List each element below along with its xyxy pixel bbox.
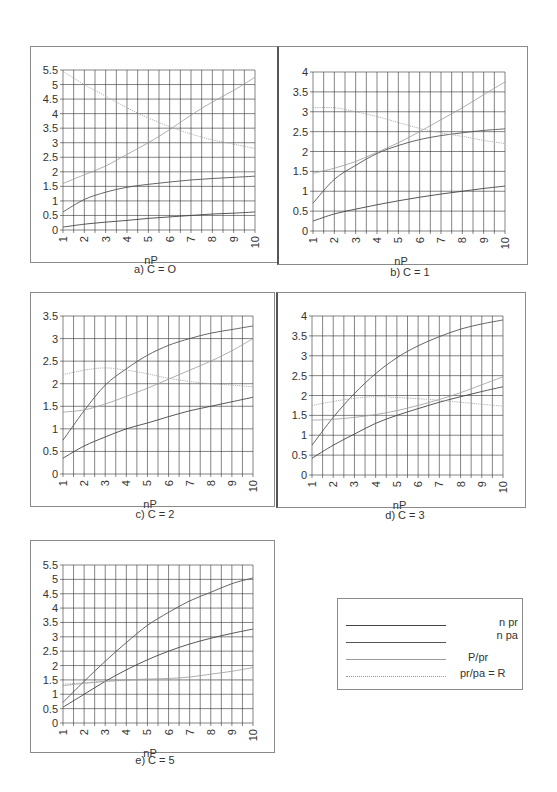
x-tick-label: 8 bbox=[206, 236, 218, 242]
y-tick-label: 2.5 bbox=[43, 645, 58, 657]
legend-line-p-pr bbox=[346, 659, 446, 660]
x-tick-label: 10 bbox=[247, 480, 259, 492]
y-tick-label: 1.5 bbox=[43, 180, 58, 192]
y-tick-label: 0 bbox=[52, 717, 58, 729]
legend-label-p-pr: P/pr bbox=[468, 651, 488, 663]
x-tick-label: 1 bbox=[57, 729, 69, 735]
y-tick-label: 2 bbox=[52, 378, 58, 390]
y-tick-label: 0 bbox=[301, 469, 307, 481]
y-tick-label: 2 bbox=[301, 390, 307, 402]
x-tick-label: 9 bbox=[226, 480, 238, 486]
y-tick-label: 3 bbox=[52, 333, 58, 345]
y-tick-label: 3.5 bbox=[43, 122, 58, 134]
x-tick-label: 2 bbox=[78, 236, 90, 242]
y-tick-label: 0.5 bbox=[43, 703, 58, 715]
x-tick-label: 3 bbox=[348, 481, 360, 487]
chart-c-grid bbox=[60, 316, 253, 477]
x-tick-label: 7 bbox=[185, 236, 197, 242]
x-tick-label: 10 bbox=[497, 481, 509, 493]
y-tick-label: 3 bbox=[52, 137, 58, 149]
y-tick-label: 3 bbox=[301, 350, 307, 362]
x-tick-label: 7 bbox=[184, 480, 196, 486]
x-tick-label: 9 bbox=[226, 729, 238, 735]
y-tick-label: 3.5 bbox=[43, 310, 58, 322]
y-tick-label: 0.5 bbox=[43, 445, 58, 457]
y-tick-label: 5 bbox=[52, 79, 58, 91]
y-tick-label: 4 bbox=[52, 602, 58, 614]
x-tick-label: 5 bbox=[391, 481, 403, 487]
y-tick-label: 1.5 bbox=[293, 165, 308, 177]
y-tick-label: 1.5 bbox=[292, 409, 307, 421]
y-tick-label: 1 bbox=[301, 429, 307, 441]
chart-b: 00.511.522.533.5412345678910nP bbox=[293, 66, 511, 267]
x-tick-label: 5 bbox=[142, 236, 154, 242]
x-tick-label: 6 bbox=[163, 729, 175, 735]
x-tick-label: 10 bbox=[499, 237, 511, 249]
x-tick-label: 4 bbox=[121, 236, 133, 242]
x-tick-label: 3 bbox=[99, 729, 111, 735]
chart-e-grid bbox=[60, 565, 253, 726]
x-tick-label: 6 bbox=[164, 236, 176, 242]
x-tick-label: 9 bbox=[478, 237, 490, 243]
y-tick-label: 3 bbox=[302, 106, 308, 118]
y-tick-label: 1.5 bbox=[43, 674, 58, 686]
x-tick-label: 4 bbox=[120, 729, 132, 735]
chart-d: 00.511.522.533.5412345678910nP bbox=[292, 310, 509, 511]
y-tick-label: 3.5 bbox=[292, 330, 307, 342]
y-tick-label: 3.5 bbox=[43, 616, 58, 628]
legend-label-n-pr: n pr bbox=[446, 616, 518, 628]
x-tick-label: 3 bbox=[100, 236, 112, 242]
y-tick-label: 1 bbox=[52, 195, 58, 207]
x-tick-label: 7 bbox=[435, 237, 447, 243]
y-tick-label: 0 bbox=[302, 225, 308, 237]
x-tick-label: 3 bbox=[350, 237, 362, 243]
legend-line-n-pa bbox=[346, 642, 446, 643]
x-axis-label: nP bbox=[394, 255, 407, 267]
x-tick-label: 5 bbox=[392, 237, 404, 243]
x-tick-label: 1 bbox=[57, 480, 69, 486]
x-tick-label: 6 bbox=[414, 237, 426, 243]
x-tick-label: 4 bbox=[371, 237, 383, 243]
x-tick-label: 10 bbox=[247, 729, 259, 741]
chart-d-grid bbox=[309, 316, 503, 478]
legend-label-pr-pa: pr/pa = R bbox=[460, 667, 506, 679]
y-tick-label: 2 bbox=[302, 146, 308, 158]
chart-e: 00.511.522.533.544.555.512345678910nP bbox=[43, 559, 259, 759]
y-tick-label: 2.5 bbox=[43, 151, 58, 163]
x-tick-label: 7 bbox=[433, 481, 445, 487]
x-tick-label: 9 bbox=[228, 236, 240, 242]
y-tick-label: 4.5 bbox=[43, 93, 58, 105]
x-tick-label: 2 bbox=[78, 729, 90, 735]
x-tick-label: 1 bbox=[306, 481, 318, 487]
x-tick-label: 2 bbox=[78, 480, 90, 486]
x-tick-label: 8 bbox=[205, 729, 217, 735]
x-axis-label: nP bbox=[143, 498, 156, 510]
x-tick-label: 8 bbox=[455, 481, 467, 487]
x-axis-label: nP bbox=[143, 747, 156, 759]
y-tick-label: 4 bbox=[302, 66, 308, 78]
y-tick-label: 1 bbox=[302, 185, 308, 197]
y-tick-label: 0 bbox=[52, 224, 58, 236]
x-tick-label: 6 bbox=[412, 481, 424, 487]
legend-box: n pr n pa P/pr pr/pa = R bbox=[337, 598, 523, 690]
y-tick-label: 5.5 bbox=[43, 559, 58, 571]
y-tick-label: 4 bbox=[52, 108, 58, 120]
chart-b-grid bbox=[310, 72, 505, 234]
x-tick-label: 5 bbox=[141, 729, 153, 735]
y-tick-label: 2.5 bbox=[293, 126, 308, 138]
legend-label-n-pa: n pa bbox=[446, 629, 518, 641]
legend-line-pr-pa bbox=[346, 676, 446, 677]
y-tick-label: 0.5 bbox=[43, 209, 58, 221]
x-tick-label: 2 bbox=[328, 237, 340, 243]
x-axis-label: nP bbox=[144, 254, 157, 266]
y-tick-label: 2 bbox=[52, 166, 58, 178]
y-tick-label: 2.5 bbox=[43, 355, 58, 367]
x-tick-label: 2 bbox=[327, 481, 339, 487]
x-tick-label: 1 bbox=[57, 236, 69, 242]
x-tick-label: 4 bbox=[370, 481, 382, 487]
y-tick-label: 5.5 bbox=[43, 64, 58, 76]
x-axis-label: nP bbox=[393, 499, 406, 511]
y-tick-label: 2.5 bbox=[292, 370, 307, 382]
y-tick-label: 4 bbox=[301, 310, 307, 322]
y-tick-label: 1 bbox=[52, 423, 58, 435]
